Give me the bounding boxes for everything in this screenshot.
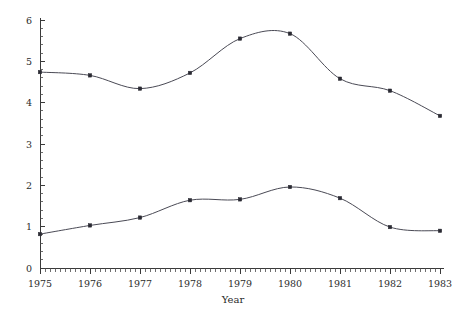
axis-tick-labels: 0123456197519761977197819791980198119821… [26, 15, 452, 290]
x-tick-label: 1981 [328, 278, 352, 289]
x-tick-label: 1983 [428, 278, 452, 289]
data-point-marker [138, 87, 141, 90]
data-point-marker [438, 229, 441, 232]
data-point-marker [238, 37, 241, 40]
data-point-marker [388, 89, 391, 92]
x-tick-label: 1976 [78, 278, 102, 289]
data-point-marker [38, 232, 41, 235]
data-point-marker [288, 185, 291, 188]
axis-ticks [40, 20, 440, 274]
y-tick-label: 1 [26, 221, 32, 232]
x-axis-title: Year [221, 294, 245, 305]
data-point-marker [38, 70, 41, 73]
data-point-marker [88, 224, 91, 227]
x-tick-label: 1977 [128, 278, 152, 289]
y-tick-label: 4 [26, 97, 32, 108]
chart-container: 0123456197519761977197819791980198119821… [0, 0, 466, 312]
data-series [40, 31, 440, 235]
y-tick-label: 0 [26, 263, 32, 274]
data-point-marker [188, 199, 191, 202]
axes [40, 18, 444, 268]
x-tick-label: 1980 [278, 278, 302, 289]
series-line-lower-series [40, 187, 440, 234]
x-tick-label: 1979 [228, 278, 252, 289]
data-point-marker [238, 198, 241, 201]
data-point-marker [88, 74, 91, 77]
data-point-marker [138, 216, 141, 219]
data-point-markers [38, 32, 441, 236]
data-point-marker [388, 225, 391, 228]
y-tick-label: 2 [26, 180, 32, 191]
x-tick-label: 1982 [378, 278, 402, 289]
data-point-marker [438, 114, 441, 117]
x-tick-label: 1978 [178, 278, 202, 289]
y-tick-label: 6 [26, 15, 32, 26]
data-point-marker [338, 77, 341, 80]
data-point-marker [338, 196, 341, 199]
y-tick-label: 5 [26, 56, 32, 67]
data-point-marker [188, 71, 191, 74]
x-tick-label: 1975 [28, 278, 52, 289]
data-point-marker [288, 32, 291, 35]
series-line-upper-series [40, 31, 440, 116]
line-chart: 0123456197519761977197819791980198119821… [0, 0, 466, 312]
y-tick-label: 3 [26, 139, 32, 150]
